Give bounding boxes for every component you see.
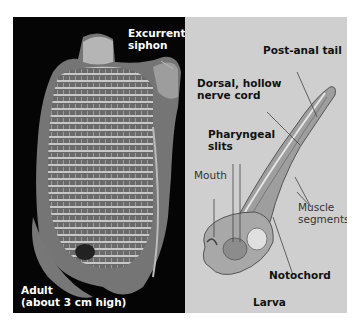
pharyngeal-label-line1: Pharyngeal (208, 128, 275, 140)
pharyngeal-slits-label: Pharyngeal slits (208, 128, 275, 152)
larva-caption: Larva (253, 296, 286, 308)
notochord-label: Notochord (269, 269, 331, 281)
adult-caption: Adult (about 3 cm high) (21, 284, 126, 308)
pharyngeal-label-line2: slits (208, 140, 275, 152)
muscle-label-line2: segments (298, 213, 347, 225)
adult-tunicate-illustration (13, 17, 185, 313)
excurrent-label-line1: Excurrent (128, 27, 185, 39)
adult-caption-line2: (about 3 cm high) (21, 296, 126, 308)
dorsal-label-line2: nerve cord (197, 89, 282, 101)
adult-panel: Excurrent siphon Adult (about 3 cm high) (13, 17, 185, 313)
mouth-label: Mouth (194, 169, 227, 181)
muscle-label-line1: Muscle (298, 201, 347, 213)
larva-panel: Post-anal tail Dorsal, hollow nerve cord… (185, 17, 347, 313)
excurrent-siphon-label: Excurrent siphon (128, 27, 185, 51)
dorsal-nerve-cord-label: Dorsal, hollow nerve cord (197, 77, 282, 101)
post-anal-tail-label: Post-anal tail (263, 44, 342, 56)
excurrent-label-line2: siphon (128, 39, 185, 51)
muscle-segments-label: Muscle segments (298, 201, 347, 225)
adult-caption-line1: Adult (21, 284, 126, 296)
dorsal-label-line1: Dorsal, hollow (197, 77, 282, 89)
